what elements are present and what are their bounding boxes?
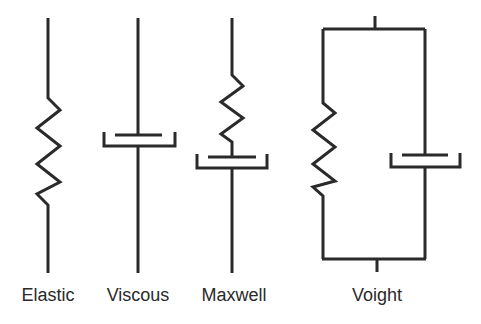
maxwell-model (197, 18, 267, 273)
elastic-model (37, 18, 60, 273)
maxwell-spring (221, 18, 243, 157)
viscous-model (104, 18, 175, 273)
maxwell-label: Maxwell (201, 285, 266, 306)
elastic-spring (37, 18, 60, 273)
viscous-label: Viscous (107, 285, 170, 306)
voight-label: Voight (352, 285, 402, 306)
voight-model (313, 16, 460, 272)
viscoelastic-models-diagram (0, 0, 481, 324)
voight-spring (313, 29, 335, 259)
elastic-label: Elastic (21, 285, 74, 306)
